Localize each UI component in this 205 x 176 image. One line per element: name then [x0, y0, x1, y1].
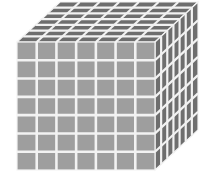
cube-illustration [0, 0, 205, 176]
cube-figure [0, 0, 205, 176]
front-face [17, 42, 155, 170]
